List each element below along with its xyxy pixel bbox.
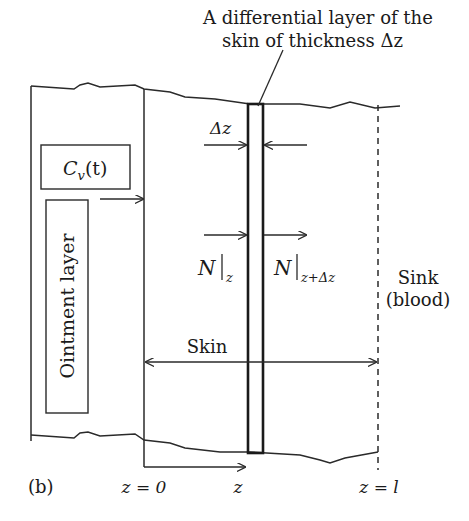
top-edge [31, 83, 400, 108]
flux-in-sub: z [225, 270, 233, 285]
concentration-label: Cv(t) [63, 157, 107, 183]
caption-leader-line [258, 50, 283, 106]
panel-label: (b) [28, 476, 54, 497]
z-label: z [233, 477, 244, 497]
z0-label: z = 0 [121, 477, 167, 497]
differential-layer [248, 104, 263, 453]
skin-label: Skin [187, 336, 228, 357]
diffusion-diagram: A differential layer of the skin of thic… [0, 0, 469, 521]
ointment-label: Ointment layer [56, 233, 78, 379]
sink-label: Sink [398, 267, 440, 288]
bottom-edge [31, 432, 378, 463]
flux-in-label: N [197, 256, 217, 280]
caption-line-1: A differential layer of the [202, 7, 433, 28]
flux-out-sub: z+Δz [300, 270, 335, 285]
caption-line-2: skin of thickness Δz [222, 30, 403, 51]
blood-label: (blood) [386, 289, 451, 310]
zl-label: z = l [358, 477, 398, 497]
delta-z-label: Δz [209, 118, 232, 138]
flux-out-label: N [273, 256, 293, 280]
